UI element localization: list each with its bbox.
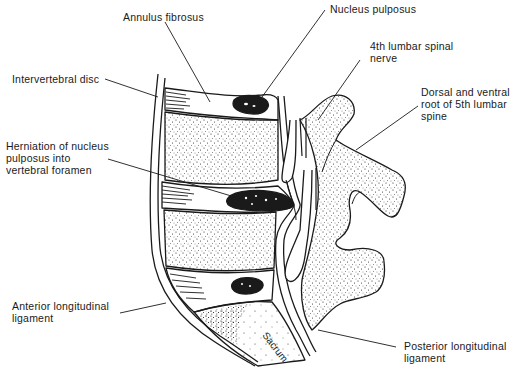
leader-roots [356,106,418,150]
label-nucleus-pulposus: Nucleus pulposus [330,3,416,15]
leader-nucleus [262,10,325,97]
label-intervertebral-disc: Intervertebral disc [12,73,99,85]
vertebral-body-l4 [165,112,278,185]
label-herniation: Herniation of nucleus pulposus into vert… [6,140,109,176]
leader-posterior [318,330,396,347]
label-dorsal-ventral-root: Dorsal and ventral root of 5th lumbar sp… [421,86,510,122]
leader-anterior [120,303,166,313]
intervertebral-disc-herniated [162,182,294,212]
vertebral-body-l5 [164,210,276,271]
label-posterior-longitudinal-ligament: Posterior longitudinal ligament [404,340,506,364]
label-anterior-longitudinal-ligament: Anterior longitudinal ligament [12,300,109,324]
leader-intervertebral [105,79,158,97]
nucleus-pulposus-bottom [232,278,263,294]
label-4th-lumbar-spinal-nerve: 4th lumbar spinal nerve [370,40,453,64]
label-annulus-fibrosus: Annulus fibrosus [123,11,204,23]
nucleus-pulposus-top [233,96,268,115]
